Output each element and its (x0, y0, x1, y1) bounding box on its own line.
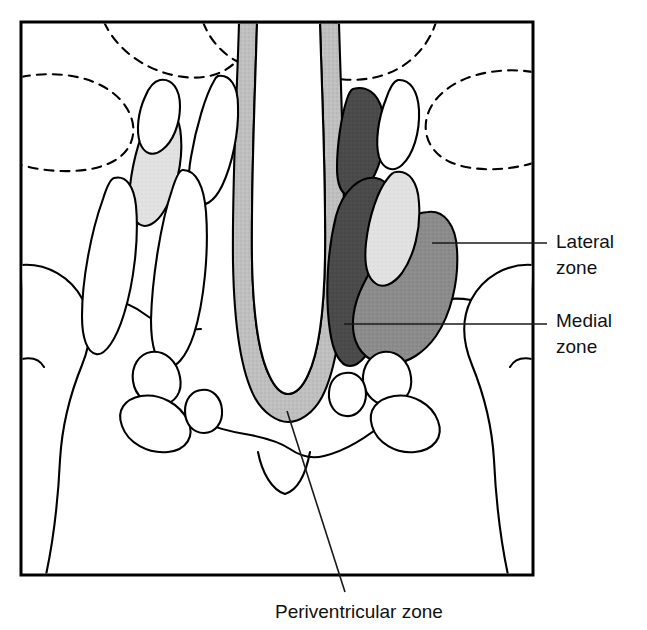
hypothalamus-zones-diagram: Lateral zone Medial zone Periventricular… (0, 0, 647, 630)
label-periventricular-zone: Periventricular zone (275, 601, 443, 622)
third-ventricle-lumen (252, 23, 325, 394)
label-medial-zone: Medial zone (556, 310, 612, 357)
unshaded-nucleus-left-base-3 (185, 390, 222, 433)
figure-root: Lateral zone Medial zone Periventricular… (0, 0, 647, 630)
label-lateral-zone: Lateral zone (556, 231, 614, 278)
label-lateral-zone-line2: zone (556, 257, 597, 278)
unshaded-nucleus-right-base-3 (329, 373, 366, 416)
label-periventricular-zone-line1: Periventricular zone (275, 601, 443, 622)
label-medial-zone-line1: Medial (556, 310, 612, 331)
label-lateral-zone-line1: Lateral (556, 231, 614, 252)
label-medial-zone-line2: zone (556, 336, 597, 357)
